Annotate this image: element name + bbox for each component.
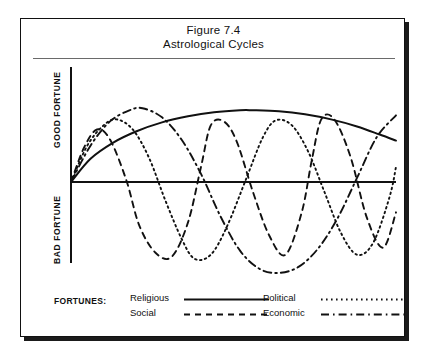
legend-swatch-political xyxy=(321,298,406,301)
legend-title-label: FORTUNES: xyxy=(54,296,106,306)
chart-legend: FORTUNES: Religious Social xyxy=(54,291,406,329)
legend-swatch-religious xyxy=(184,298,269,301)
figure-root: Figure 7.4 Astrological Cycles GOOD FORT… xyxy=(0,0,431,352)
series-line-religious xyxy=(71,110,396,182)
legend-label-religious: Religious xyxy=(130,292,169,303)
legend-label-political: Political xyxy=(263,292,296,303)
chart-series-group xyxy=(71,108,396,273)
legend-swatch-economic xyxy=(321,313,406,316)
figure-frame: Figure 7.4 Astrological Cycles GOOD FORT… xyxy=(20,18,405,337)
series-line-social xyxy=(71,114,396,259)
legend-label-social: Social xyxy=(130,307,156,318)
legend-swatch-social xyxy=(184,313,269,316)
legend-label-economic: Economic xyxy=(263,307,305,318)
